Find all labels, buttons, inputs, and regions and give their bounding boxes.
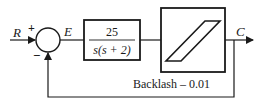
- plant-denominator: s(s + 2): [93, 43, 130, 57]
- plant-transfer-function-block: 25 s(s + 2): [84, 20, 140, 60]
- plant-numerator: 25: [106, 25, 118, 39]
- output-label-c: C: [236, 24, 245, 39]
- backlash-block: [161, 8, 225, 72]
- block-diagram: R + − E 25 s(s + 2) C Backlash – 0.01: [0, 0, 269, 103]
- input-label-r: R: [12, 25, 21, 40]
- minus-sign: −: [33, 48, 40, 63]
- error-label-e: E: [63, 24, 72, 39]
- backlash-label: Backlash – 0.01: [133, 77, 210, 91]
- plus-sign: +: [28, 21, 35, 35]
